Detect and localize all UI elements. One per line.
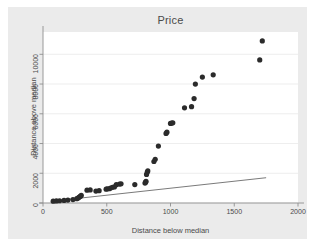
plot-inner-region bbox=[43, 32, 298, 203]
x-tick-label: 1500 bbox=[226, 208, 242, 215]
x-tick-label: 2000 bbox=[290, 208, 306, 215]
x-axis-label: Distance below median bbox=[43, 226, 298, 235]
x-tick-label: 1000 bbox=[163, 208, 179, 215]
chart-title: Price bbox=[43, 14, 298, 26]
y-tick-label: 10000 bbox=[32, 54, 39, 91]
x-tick-label: 500 bbox=[101, 208, 113, 215]
x-tick-label: 0 bbox=[41, 208, 45, 215]
chart-figure: Price Distance below median Distance abo… bbox=[0, 0, 315, 252]
